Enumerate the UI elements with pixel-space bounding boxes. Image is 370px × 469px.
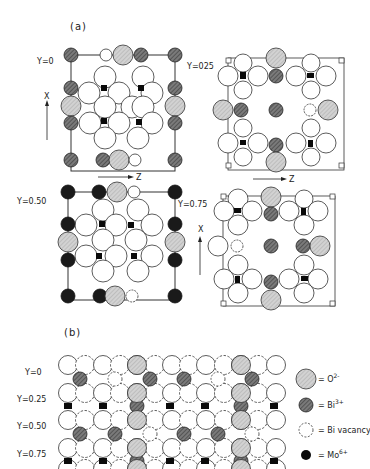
svg-text:= Mo6+: = Mo6+ [318,448,348,460]
legend-text-oxygen: = O [318,375,334,384]
legend-text-vacancy: = Bi vacancy [318,426,370,435]
oxygen-icon [296,369,316,389]
panel-a-label: (a) [70,21,87,32]
legend: = O2- = Bi3+ = Bi vacancy = Mo6+ [296,369,370,460]
bi-vacancy-icon [299,423,313,437]
layer-label-y050: Y=0.50 [16,197,46,206]
legend-sup-molybdenum: 6+ [339,448,348,455]
legend-sup-bismuth: 3+ [335,398,344,405]
row-label-y075: Y=0.75 [16,450,46,459]
layer-y050: Y=0.50 [16,182,185,306]
axis-z-label: Z [136,173,142,182]
legend-item-bismuth: = Bi3+ [299,398,344,412]
row-label-y025: Y=0.25 [16,395,46,404]
axis-x-label-lower-right: X [198,225,204,234]
layer-label-y0: Y=0 [36,57,54,66]
layer-y0: Y=0 X Z [36,45,185,182]
layer-y025: Y=025 Z [186,48,344,184]
svg-text:= Bi3+: = Bi3+ [318,398,344,410]
layer-label-y025: Y=025 [186,62,214,71]
legend-text-bismuth: = Bi [318,401,335,410]
molybdenum-icon [301,450,311,460]
legend-item-oxygen: = O2- [296,369,340,389]
legend-sup-oxygen: 2- [334,372,340,379]
layer-y075: Y=0.75 X [177,187,335,310]
layer-label-y075: Y=0.75 [177,200,207,209]
legend-text-molybdenum: = Mo [318,451,339,460]
row-label-y050: Y=0.50 [16,422,46,431]
axis-z-label-upper-right: Z [289,175,295,184]
axis-x-label: X [44,92,50,101]
panel-b-lattice: Y=0 Y=0.25 Y=0.50 Y=0.75 [16,356,286,469]
bismuth-icon [299,398,313,412]
row-label-y0: Y=0 [24,368,42,377]
svg-text:= O2-: = O2- [318,372,340,384]
panel-b-label: (b) [64,327,81,338]
legend-item-molybdenum: = Mo6+ [301,448,348,460]
crystal-structure-figure: (a) (b) Y=0 X Z [0,0,370,469]
legend-item-vacancy: = Bi vacancy [299,423,370,437]
